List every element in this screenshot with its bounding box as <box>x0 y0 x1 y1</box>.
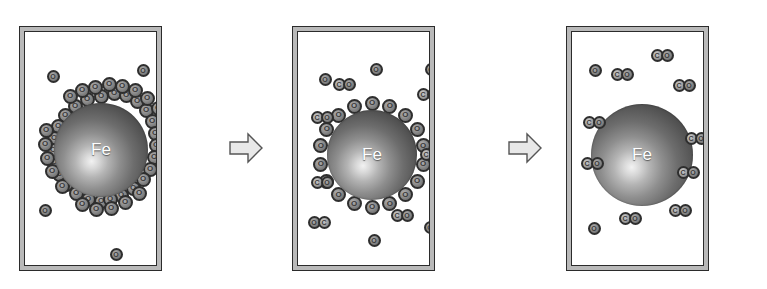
atom-label-o: O <box>49 167 55 175</box>
atom-label-c: C <box>622 214 627 221</box>
atom-label-c: C <box>676 81 681 88</box>
atom-label-o: O <box>690 168 695 175</box>
atom-label-c: C <box>314 113 319 120</box>
oxygen-atom: O <box>137 64 150 77</box>
fe-label: Fe <box>327 145 417 165</box>
adsorbed-oxygen-atom: O <box>39 123 54 138</box>
panel-3-interior: FeCOOCOCOCOCOCOCOCOCOO <box>571 31 704 266</box>
atom-label-o: O <box>151 153 157 161</box>
atom-label-o: O <box>592 66 597 73</box>
atom-label-o: O <box>79 86 85 94</box>
atom-label-o: O <box>67 92 73 100</box>
oxygen-atom: O <box>425 63 431 76</box>
atom-label-o: O <box>59 182 65 190</box>
atom-label-o: O <box>414 125 420 133</box>
panel-3: FeCOOCOCOCOCOCOCOCOCOO <box>566 26 709 271</box>
atom-label-o: O <box>632 214 637 221</box>
oxygen-atom: O <box>319 73 332 86</box>
atom-label-o: O <box>108 204 114 212</box>
atom-label-o: O <box>147 165 153 173</box>
atom-label-c: C <box>394 211 399 218</box>
atom-label-o: O <box>387 200 393 208</box>
atom-label-o: O <box>369 203 375 211</box>
atom-label-o: O <box>335 111 341 119</box>
atom-label-o: O <box>324 125 330 133</box>
atom-label-o: O <box>404 211 409 218</box>
adsorbed-oxygen-atom: O <box>88 80 103 95</box>
adsorbed-oxygen-atom: O <box>89 202 104 217</box>
atom-label-o: O <box>79 200 85 208</box>
atom-o: O <box>401 209 414 222</box>
fe-nanoparticle: Fe <box>591 104 693 206</box>
atom-o: O <box>695 132 705 145</box>
fe-label: Fe <box>54 140 148 160</box>
atom-label-o: O <box>136 189 142 197</box>
atom-label-o: O <box>371 236 376 243</box>
atom-label-o: O <box>335 191 341 199</box>
atom-label-c: C <box>336 80 341 87</box>
atom-label-o: O <box>698 134 703 141</box>
atom-c: C <box>420 148 431 161</box>
adsorbed-oxygen-atom: O <box>313 157 328 172</box>
oxygen-atom: O <box>588 222 601 235</box>
atom-label-o: O <box>113 250 118 257</box>
atom-label-o: O <box>373 65 378 72</box>
atom-o: O <box>661 49 674 62</box>
adsorbed-oxygen-atom: O <box>132 186 147 201</box>
fe-label: Fe <box>591 145 693 165</box>
atom-o: O <box>321 176 334 189</box>
atom-label-o: O <box>42 140 48 148</box>
atom-label-o: O <box>682 206 687 213</box>
atom-c: C <box>318 216 331 229</box>
atom-o: O <box>591 157 604 170</box>
atom-label-o: O <box>402 191 408 199</box>
atom-label-o: O <box>122 198 128 206</box>
atom-label-o: O <box>132 86 138 94</box>
oxygen-atom: O <box>47 70 60 83</box>
atom-label-o: O <box>311 218 316 225</box>
atom-label-o: O <box>324 113 329 120</box>
atom-label-o: O <box>143 106 149 114</box>
atom-label-o: O <box>92 83 98 91</box>
atom-o: O <box>683 79 696 92</box>
atom-o: O <box>679 204 692 217</box>
adsorbed-oxygen-atom: O <box>63 89 78 104</box>
atom-label-o: O <box>351 200 357 208</box>
atom-label-c: C <box>672 206 677 213</box>
atom-label-o: O <box>402 111 408 119</box>
atom-label-o: O <box>369 99 375 107</box>
atom-label-o: O <box>155 104 157 112</box>
atom-label-o: O <box>686 81 691 88</box>
atom-label-o: O <box>152 129 157 137</box>
atom-label-o: O <box>594 159 599 166</box>
atom-label-c: C <box>420 90 425 97</box>
atom-label-o: O <box>596 118 601 125</box>
atom-label-o: O <box>106 80 112 88</box>
atom-label-o: O <box>428 65 430 72</box>
atom-label-o: O <box>42 206 47 213</box>
adsorbed-oxygen-atom: O <box>365 200 380 215</box>
panel-1: OOOOOOOOOOOOOOOOOOOOOOOOOOOOOOOOOOOOOOOO… <box>19 26 162 271</box>
atom-label-c: C <box>314 178 319 185</box>
arrow-stage-2-to-3 <box>508 132 542 164</box>
atom-label-o: O <box>664 51 669 58</box>
atom-label-o: O <box>119 82 125 90</box>
oxygen-atom: O <box>424 221 431 234</box>
atom-label-o: O <box>144 94 150 102</box>
atom-label-c: C <box>321 218 326 225</box>
atom-label-o: O <box>324 178 329 185</box>
atom-label-o: O <box>322 75 327 82</box>
atom-label-c: C <box>423 150 428 157</box>
oxygen-atom: O <box>370 63 383 76</box>
atom-o: O <box>629 212 642 225</box>
atom-label-o: O <box>153 141 157 149</box>
oxygen-atom: O <box>368 234 381 247</box>
atom-label-c: C <box>688 134 693 141</box>
panel-2: OOOOOOOOOOOOOOOOOOFeOOOCOCOCOOCCOCOCOOO <box>292 26 435 271</box>
atom-o: O <box>593 116 606 129</box>
panel-1-interior: OOOOOOOOOOOOOOOOOOOOOOOOOOOOOOOOOOOOOOOO… <box>24 31 157 266</box>
oxygen-atom: O <box>39 204 52 217</box>
diagram-canvas: OOOOOOOOOOOOOOOOOOOOOOOOOOOOOOOOOOOOOOOO… <box>0 0 767 289</box>
oxygen-atom: O <box>110 248 123 261</box>
panel-2-interior: OOOOOOOOOOOOOOOOOOFeOOOCOCOCOOCCOCOCOOO <box>297 31 430 266</box>
